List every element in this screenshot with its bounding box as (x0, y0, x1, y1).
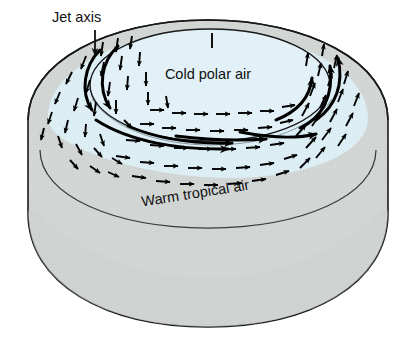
cold-polar-air-label: Cold polar air (165, 66, 251, 82)
diagram-canvas: Jet axis Cold polar air Warm tropical ai… (0, 0, 416, 344)
jet-stream-diagram: Jet axis Cold polar air Warm tropical ai… (0, 0, 416, 344)
cold-air-cap-ellipse (90, 29, 330, 141)
jet-axis-label: Jet axis (52, 9, 101, 25)
